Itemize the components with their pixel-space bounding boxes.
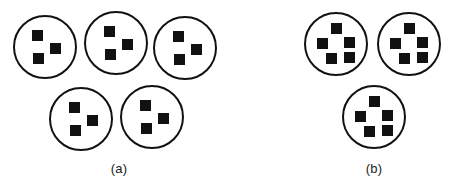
- circle-outline: [50, 88, 112, 150]
- item-square: [390, 38, 401, 49]
- circle-outline: [378, 13, 440, 75]
- item-square: [417, 37, 428, 48]
- circle-outline: [14, 16, 76, 78]
- circle-outline: [343, 86, 405, 148]
- item-square: [404, 23, 415, 34]
- group-circle: [154, 17, 216, 79]
- group-circle: [121, 86, 183, 148]
- item-square: [158, 113, 169, 124]
- panel-caption-a: (a): [111, 161, 128, 176]
- item-square: [122, 39, 133, 50]
- item-square: [174, 54, 185, 65]
- figure-container: (a) (b): [0, 0, 449, 189]
- panel-b: [305, 13, 440, 148]
- item-square: [382, 125, 393, 136]
- item-square: [417, 52, 428, 63]
- group-circle: [85, 12, 147, 74]
- item-square: [50, 43, 61, 54]
- item-square: [140, 100, 151, 111]
- item-square: [331, 23, 342, 34]
- circle-outline: [154, 17, 216, 79]
- item-square: [69, 102, 80, 113]
- panel-caption-b: (b): [366, 161, 383, 176]
- item-square: [344, 52, 355, 63]
- item-square: [344, 37, 355, 48]
- group-circle: [14, 16, 76, 78]
- group-circle: [343, 86, 405, 148]
- item-square: [326, 53, 337, 64]
- item-square: [399, 53, 410, 64]
- circle-outline: [121, 86, 183, 148]
- panel-a: [14, 12, 216, 150]
- item-square: [33, 53, 44, 64]
- circle-outline: [305, 13, 367, 75]
- item-square: [87, 115, 98, 126]
- item-square: [191, 44, 202, 55]
- circle-outline: [85, 12, 147, 74]
- group-circle: [378, 13, 440, 75]
- item-square: [70, 125, 81, 136]
- item-square: [355, 111, 366, 122]
- item-square: [364, 126, 375, 137]
- item-square: [382, 110, 393, 121]
- group-circle: [50, 88, 112, 150]
- item-square: [369, 96, 380, 107]
- item-square: [317, 38, 328, 49]
- group-circle: [305, 13, 367, 75]
- item-square: [141, 123, 152, 134]
- item-square: [104, 26, 115, 37]
- item-square: [105, 49, 116, 60]
- item-square: [32, 30, 43, 41]
- item-square: [173, 31, 184, 42]
